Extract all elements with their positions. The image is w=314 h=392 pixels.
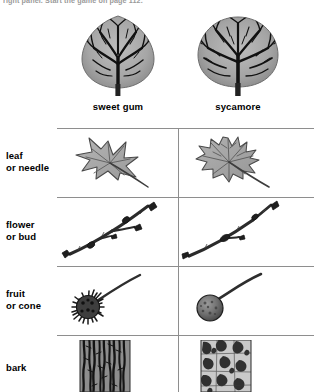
grid-rule-flower-fruit bbox=[57, 266, 314, 267]
sycamore-mottled-bark-icon bbox=[179, 340, 298, 392]
sweetgum-star-leaf-icon bbox=[58, 131, 177, 195]
row-label-line-2: or cone bbox=[6, 300, 56, 312]
cell-fruit-sweet-gum bbox=[58, 269, 177, 334]
row-label-line-1: fruit bbox=[6, 288, 56, 300]
cell-leaf-sycamore bbox=[179, 131, 298, 196]
cell-bark-sweet-gum bbox=[58, 340, 177, 392]
row-label-line-1: bark bbox=[6, 362, 56, 374]
tree-oval-crown-icon bbox=[58, 14, 178, 96]
tree-illustration-sycamore bbox=[178, 14, 298, 94]
tree-illustration-sweet-gum bbox=[58, 14, 178, 94]
grid-rule-fruit-bark bbox=[57, 335, 314, 336]
grid-rule-leaf-flower bbox=[57, 197, 314, 198]
sycamore-straight-twig-bud-icon bbox=[179, 200, 298, 264]
row-label-bark: bark bbox=[6, 362, 56, 374]
sweetgum-furrowed-bark-icon bbox=[58, 340, 177, 392]
row-label-flower-or-bud: flower or bud bbox=[6, 219, 56, 242]
cell-bud-sweet-gum bbox=[58, 200, 177, 265]
row-label-line-2: or needle bbox=[6, 162, 56, 174]
species-label-sycamore: sycamore bbox=[178, 101, 298, 112]
cell-leaf-sweet-gum bbox=[58, 131, 177, 196]
page-caption: right panel. Start the game on page 112. bbox=[3, 0, 303, 6]
sycamore-smooth-ball-fruit-icon bbox=[179, 269, 298, 333]
species-label-sweet-gum: sweet gum bbox=[58, 101, 178, 112]
row-label-fruit-or-cone: fruit or cone bbox=[6, 288, 56, 311]
sweetgum-spiky-gumball-fruit-icon bbox=[58, 269, 177, 333]
grid-rule-top bbox=[57, 128, 314, 129]
row-label-line-1: flower bbox=[6, 219, 56, 231]
row-label-line-1: leaf bbox=[6, 150, 56, 162]
sweetgum-forked-twig-bud-icon bbox=[58, 200, 177, 264]
tree-round-crown-icon bbox=[178, 14, 298, 96]
row-label-leaf-or-needle: leaf or needle bbox=[6, 150, 56, 173]
row-label-line-2: or bud bbox=[6, 231, 56, 243]
cell-fruit-sycamore bbox=[179, 269, 298, 334]
cell-bark-sycamore bbox=[179, 340, 298, 392]
cell-bud-sycamore bbox=[179, 200, 298, 265]
sycamore-lobed-leaf-icon bbox=[179, 131, 298, 195]
